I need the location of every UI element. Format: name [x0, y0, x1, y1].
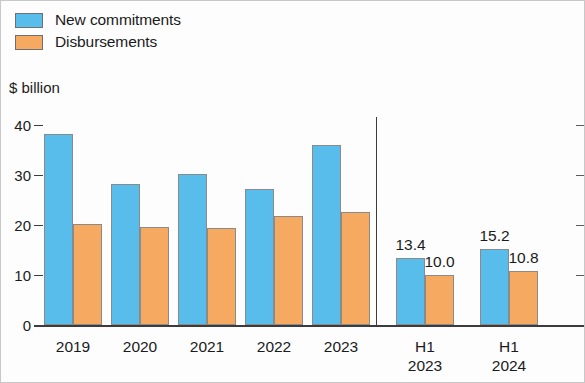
y-axis-tick-label: 20 [1, 217, 31, 234]
bar [207, 228, 236, 326]
y-axis-tick-label: 40 [1, 117, 31, 134]
period-separator-line [376, 117, 377, 325]
bar-value-label: 10.0 [424, 253, 454, 271]
bar [111, 184, 140, 325]
y-axis-tick-label: 10 [1, 267, 31, 284]
bar [44, 134, 73, 325]
y-axis-tick-mark-right [576, 175, 584, 176]
bar [312, 145, 341, 326]
x-axis-category-label: 2022 [257, 337, 291, 356]
x-axis-baseline [34, 325, 584, 327]
bar [73, 224, 102, 325]
y-axis-tick-mark-right [576, 125, 584, 126]
y-axis-tick-mark [34, 275, 43, 276]
y-axis-tick-mark [34, 125, 43, 126]
x-axis-category-label: 2023 [324, 337, 358, 356]
x-axis-category-label: H1 2024 [492, 337, 526, 375]
bar-value-label: 10.8 [508, 249, 538, 267]
y-axis-tick-mark [34, 225, 43, 226]
bar [140, 227, 169, 325]
x-axis-category-label: H1 2023 [408, 337, 442, 375]
bar [480, 249, 509, 325]
bar-value-label: 15.2 [479, 227, 509, 245]
bar-value-label: 13.4 [395, 236, 425, 254]
bar [274, 216, 303, 326]
y-axis-tick-mark-right [576, 225, 584, 226]
bar [425, 275, 454, 325]
bar [396, 258, 425, 325]
bar-chart: New commitments Disbursements $ billion … [0, 0, 585, 383]
y-axis-tick-label: 0 [1, 317, 31, 334]
bar [341, 212, 370, 326]
x-axis-category-label: 2021 [190, 337, 224, 356]
y-axis-tick-label: 30 [1, 167, 31, 184]
y-axis-tick-mark [34, 175, 43, 176]
bar [178, 174, 207, 326]
x-axis-category-label: 2019 [56, 337, 90, 356]
bar [245, 189, 274, 326]
bar [509, 271, 538, 325]
x-axis-category-label: 2020 [123, 337, 157, 356]
plot-area: 0102030402019202020212022202313.410.0H1 … [1, 1, 585, 383]
y-axis-tick-mark-right [576, 275, 584, 276]
